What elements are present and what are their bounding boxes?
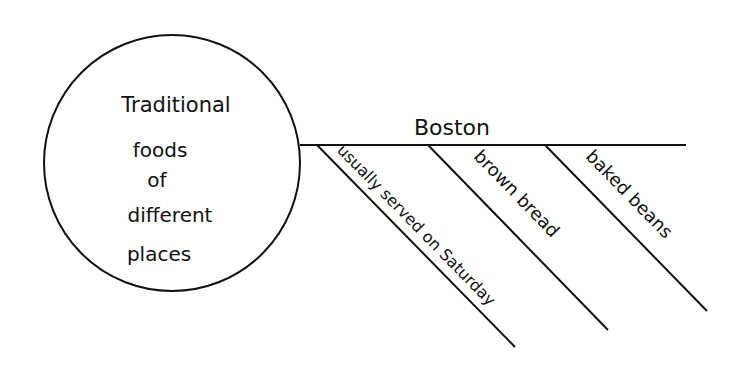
detail-brown-bread: brown bread bbox=[428, 145, 608, 330]
center-line-5: places bbox=[127, 242, 191, 266]
diagram-canvas: Traditional foods of different places Bo… bbox=[0, 0, 737, 387]
center-line-4: different bbox=[128, 203, 213, 227]
detail-baked-beans: baked beans bbox=[545, 145, 707, 311]
branch-boston: Boston bbox=[300, 115, 686, 145]
detail-line-2 bbox=[428, 145, 608, 330]
detail-label-3: baked beans bbox=[582, 145, 677, 242]
center-line-2: foods bbox=[133, 138, 188, 162]
detail-label-2: brown bread bbox=[470, 145, 564, 241]
detail-line-3 bbox=[545, 145, 707, 311]
detail-label-1: usually served on Saturday bbox=[333, 140, 499, 309]
center-line-1: Traditional bbox=[120, 93, 230, 117]
center-node: Traditional foods of different places bbox=[44, 35, 300, 291]
branch-label: Boston bbox=[414, 115, 490, 140]
center-line-3: of bbox=[147, 168, 167, 192]
